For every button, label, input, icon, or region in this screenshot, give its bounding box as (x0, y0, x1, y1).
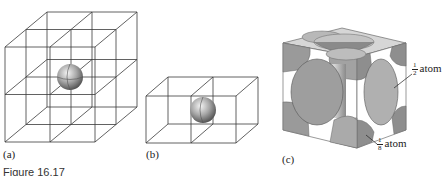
panel-c-fcc-cell (283, 28, 412, 148)
half-atom-annotation: 12atom (412, 62, 442, 77)
panel-b-atom (190, 97, 216, 123)
panel-c-label: (c) (282, 153, 294, 165)
panel-b-label: (b) (146, 148, 159, 160)
eighth-atom-annotation: 18atom (377, 137, 407, 152)
half-fraction: 12 (412, 62, 418, 77)
panel-a-atom (57, 64, 83, 90)
figure-canvas (0, 0, 442, 176)
figure-caption: Figure 16.17 (3, 166, 65, 176)
eighth-fraction: 18 (377, 137, 383, 152)
panel-a-label: (a) (3, 148, 15, 160)
